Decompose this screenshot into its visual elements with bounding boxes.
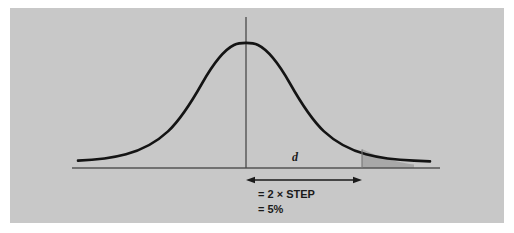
measurement-arrow (246, 177, 362, 183)
figure-screenshot: d = 2 × STEP = 5% (0, 0, 514, 233)
arrow-head-left-icon (246, 177, 255, 183)
distance-label-d: d (292, 151, 298, 163)
distribution-chart (0, 0, 514, 233)
annotation-step-label: = 2 × STEP (258, 189, 315, 200)
annotation-percent-label: = 5% (258, 204, 283, 215)
arrow-head-right-icon (353, 177, 362, 183)
gaussian-curve (78, 43, 430, 161)
